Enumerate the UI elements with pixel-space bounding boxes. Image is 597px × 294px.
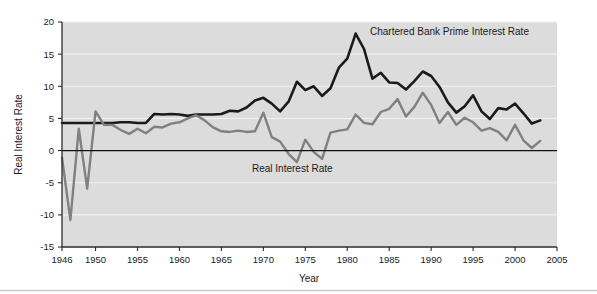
x-tick-label-1985: 1985 — [379, 254, 400, 265]
x-tick-label-1965: 1965 — [211, 254, 232, 265]
x-tick-label-1955: 1955 — [127, 254, 148, 265]
x-tick-label-1970: 1970 — [253, 254, 274, 265]
x-tick-label-1960: 1960 — [169, 254, 190, 265]
y-tick-label--10: -10 — [40, 209, 54, 220]
y-tick-label--15: -15 — [40, 241, 54, 252]
x-tick-label-1995: 1995 — [463, 254, 484, 265]
prime-rate-series-label: Chartered Bank Prime Interest Rate — [370, 26, 529, 37]
y-tick-label--5: -5 — [46, 177, 54, 188]
real-rate-series-label: Real Interest Rate — [252, 163, 333, 174]
x-tick-label-1975: 1975 — [295, 254, 316, 265]
plot-area-background — [62, 22, 557, 247]
y-axis-title: Real Interest Rate — [13, 94, 24, 175]
y-tick-label-10: 10 — [43, 81, 54, 92]
chart-svg: -15-10-505101520 19461950195519601965197… — [0, 0, 597, 294]
x-tick-label-1946: 1946 — [51, 254, 72, 265]
x-tick-label-2000: 2000 — [504, 254, 525, 265]
x-axis-title: Year — [299, 273, 320, 284]
y-tick-label-0: 0 — [49, 145, 54, 156]
x-tick-label-1990: 1990 — [421, 254, 442, 265]
interest-rate-chart-figure: -15-10-505101520 19461950195519601965197… — [0, 0, 597, 294]
y-tick-label-20: 20 — [43, 16, 54, 27]
y-tick-label-5: 5 — [49, 113, 54, 124]
x-tick-label-1980: 1980 — [337, 254, 358, 265]
y-tick-label-15: 15 — [43, 49, 54, 60]
x-tick-label-2005: 2005 — [546, 254, 567, 265]
x-tick-label-1950: 1950 — [85, 254, 106, 265]
